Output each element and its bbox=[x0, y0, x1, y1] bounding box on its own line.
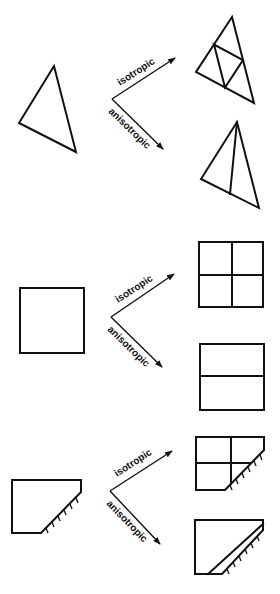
isotropic-label: isotropic bbox=[113, 272, 155, 304]
anisotropic-label: anisotropic bbox=[106, 324, 153, 370]
isotropic-square-result bbox=[199, 242, 263, 307]
row-boundary-element: isotropic anisotropic bbox=[12, 437, 264, 574]
refinement-diagram: isotropic anisotropic isotropic anisotro… bbox=[0, 0, 280, 594]
arrows-triangle: isotropic anisotropic bbox=[107, 55, 175, 151]
isotropic-boundary-result bbox=[196, 437, 264, 490]
original-triangle bbox=[19, 66, 76, 152]
anisotropic-triangle-result bbox=[201, 122, 259, 208]
anisotropic-label: anisotropic bbox=[107, 106, 154, 152]
boundary-hatch bbox=[46, 498, 78, 533]
anisotropic-boundary-result bbox=[195, 520, 263, 574]
anisotropic-label: anisotropic bbox=[105, 498, 151, 545]
isotropic-triangle-result bbox=[196, 17, 254, 103]
original-square bbox=[20, 288, 84, 353]
arrows-boundary-element: isotropic anisotropic bbox=[105, 446, 172, 544]
isotropic-label: isotropic bbox=[112, 446, 154, 478]
row-triangle: isotropic anisotropic bbox=[19, 17, 259, 208]
original-boundary-element bbox=[12, 480, 81, 533]
arrows-square: isotropic anisotropic bbox=[106, 272, 174, 369]
row-square: isotropic anisotropic bbox=[20, 242, 264, 410]
anisotropic-square-result bbox=[200, 344, 264, 410]
